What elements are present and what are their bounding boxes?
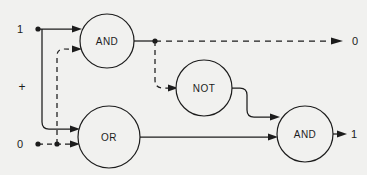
input-label-0: 0	[17, 138, 23, 150]
wire-not-to-and-right	[231, 88, 274, 117]
junction-dot-branch-0	[54, 141, 59, 146]
input-label-1: 1	[17, 23, 23, 35]
output-label-1: 1	[351, 128, 357, 140]
gate-not[interactable]: NOT	[176, 60, 232, 116]
junction-dot-input-0	[35, 141, 40, 146]
gate-and-right[interactable]: AND	[277, 106, 333, 162]
arrowhead-output-1	[337, 131, 347, 138]
gate-or[interactable]: OR	[78, 106, 140, 168]
gate-and-right-label: AND	[294, 129, 316, 140]
gate-and-top-label: AND	[96, 36, 118, 47]
junction-dot-and-top-output	[152, 38, 157, 43]
diagram-canvas: AND OR NOT AND 1 0 + 0 1	[0, 0, 367, 175]
wire-and-top-to-not	[155, 41, 170, 88]
arrowhead-output-0	[331, 38, 343, 45]
logic-circuit-diagram: AND OR NOT AND 1 0 + 0 1	[0, 0, 367, 175]
wire-1-to-or	[42, 29, 74, 129]
output-label-0: 0	[352, 35, 358, 47]
arrowhead-and-top-input-1	[72, 26, 82, 33]
arrowhead-and-right-input-1	[270, 114, 280, 121]
plus-operator-label: +	[18, 80, 25, 94]
gate-and-top[interactable]: AND	[80, 14, 134, 68]
gate-not-label: NOT	[193, 83, 215, 94]
junction-dot-input-1	[35, 26, 40, 31]
gate-or-label: OR	[101, 132, 117, 143]
